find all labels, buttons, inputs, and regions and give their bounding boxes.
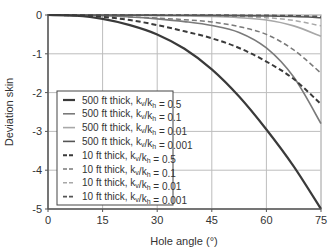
x-tick-label: 60 xyxy=(260,214,272,226)
y-tick-label: 0 xyxy=(36,9,42,21)
x-tick-label: 45 xyxy=(206,214,218,226)
y-tick-label: -3 xyxy=(32,125,42,137)
x-tick-label: 75 xyxy=(315,214,327,226)
deviation-skin-chart: 01530456075 0-1-2-3-4-5 Hole angle (°) D… xyxy=(0,0,335,252)
y-tick-label: -5 xyxy=(32,203,42,215)
x-axis-ticks: 01530456075 xyxy=(45,209,327,226)
y-axis-ticks: 0-1-2-3-4-5 xyxy=(32,9,48,215)
y-tick-label: -1 xyxy=(32,48,42,60)
y-tick-label: -4 xyxy=(32,164,42,176)
x-tick-label: 15 xyxy=(96,214,108,226)
y-tick-label: -2 xyxy=(32,87,42,99)
legend: 500 ft thick, kv/kh = 0.5500 ft thick, k… xyxy=(57,91,193,206)
x-tick-label: 0 xyxy=(45,214,51,226)
y-axis-label: Deviation skin xyxy=(3,78,15,146)
x-axis-label: Hole angle (°) xyxy=(150,235,217,247)
x-tick-label: 30 xyxy=(151,214,163,226)
series-line xyxy=(48,15,321,73)
